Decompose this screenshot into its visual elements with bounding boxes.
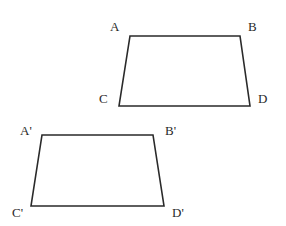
vertex-label-c: C bbox=[99, 91, 108, 106]
shape-abcd: A B D C bbox=[99, 19, 267, 106]
trapezoid-diagram: A B D C A' B' D' C' bbox=[0, 0, 286, 226]
vertex-label-d: D bbox=[258, 91, 267, 106]
shape-a-prime-b-prime-c-prime-d-prime: A' B' D' C' bbox=[12, 123, 184, 220]
vertex-label-a-prime: A' bbox=[20, 123, 32, 138]
vertex-label-b: B bbox=[248, 19, 257, 34]
vertex-label-d-prime: D' bbox=[172, 205, 184, 220]
vertex-label-b-prime: B' bbox=[165, 123, 176, 138]
vertex-label-a: A bbox=[110, 19, 120, 34]
trapezoid-prime-outline bbox=[31, 135, 164, 206]
vertex-label-c-prime: C' bbox=[12, 205, 23, 220]
trapezoid-abcd-outline bbox=[119, 36, 250, 106]
